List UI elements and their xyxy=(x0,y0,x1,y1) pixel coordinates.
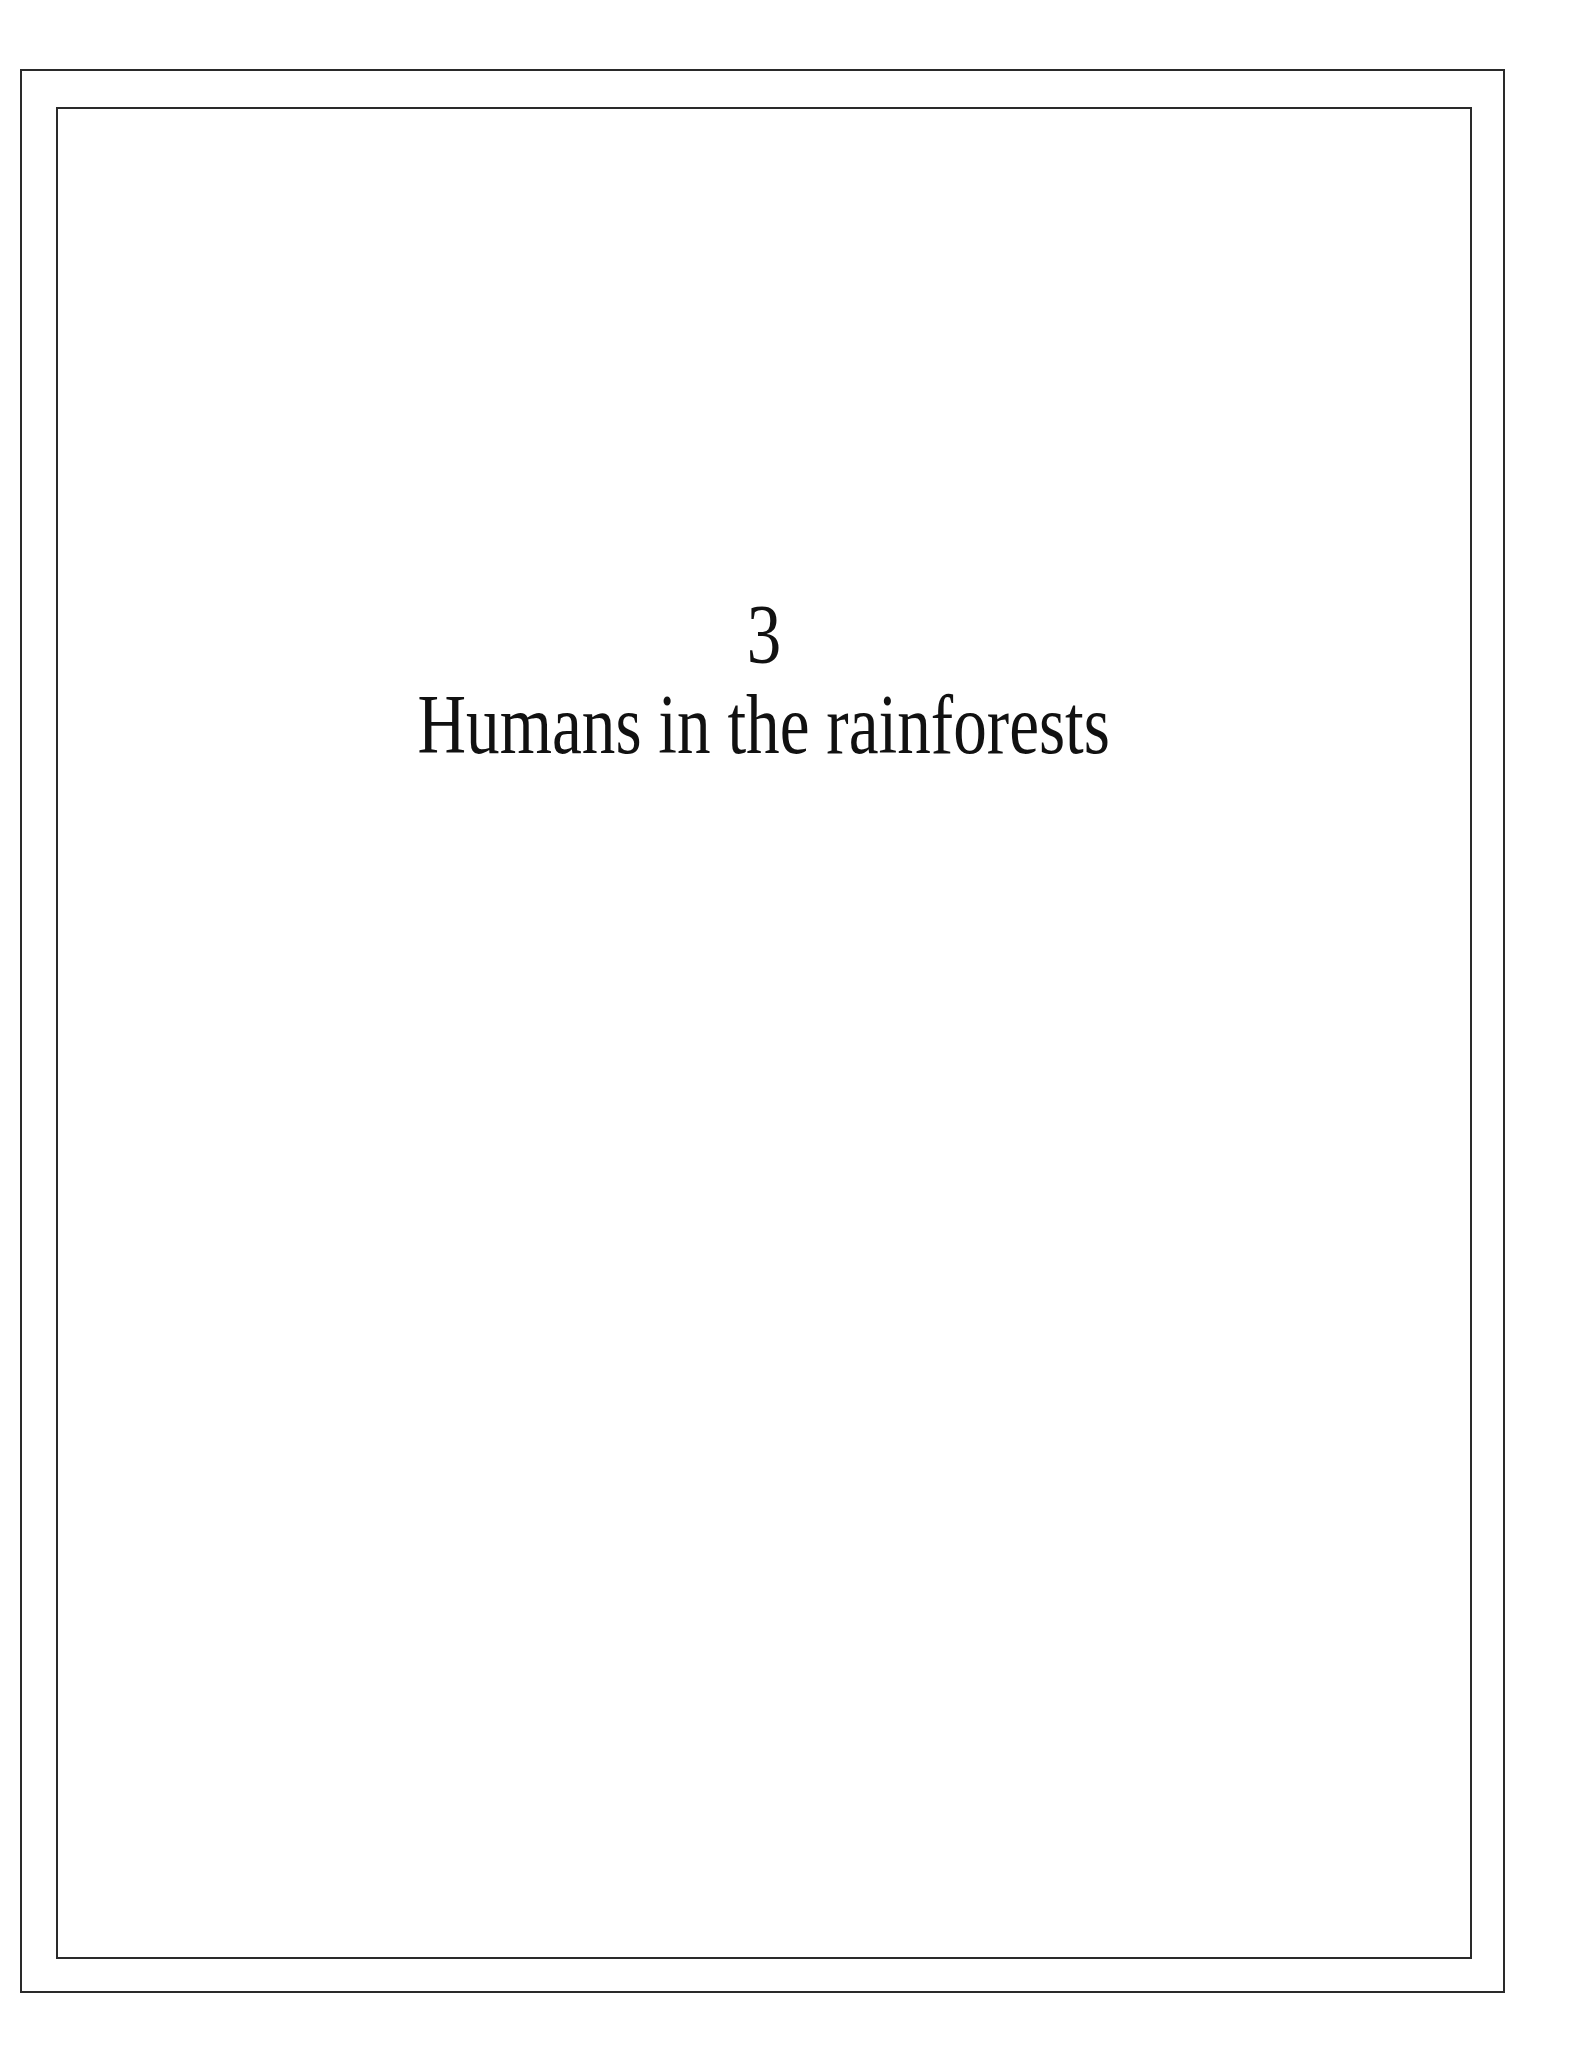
chapter-number: 3 xyxy=(747,590,781,680)
inner-page-border xyxy=(56,107,1472,1959)
chapter-title: Humans in the rainforests xyxy=(418,680,1110,770)
chapter-heading: 3 Humans in the rainforests xyxy=(56,590,1472,770)
